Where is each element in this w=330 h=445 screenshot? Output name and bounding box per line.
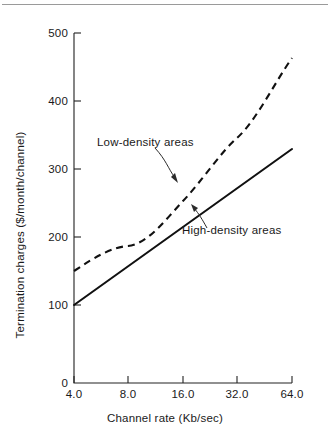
x-tick-label-64: 64.0	[272, 388, 312, 400]
y-tick-label-400: 400	[28, 95, 68, 107]
y-axis-ticks	[74, 33, 81, 305]
series-low-density-areas	[74, 58, 292, 271]
chart-figure: 500 400 300 200 100 0 4.0 8.0 16.0 32.0 …	[0, 0, 330, 445]
x-tick-label-8: 8.0	[108, 388, 148, 400]
x-axis-title: Channel rate (Kb/sec)	[0, 412, 330, 424]
x-tick-label-32: 32.0	[217, 388, 257, 400]
y-axis-title: Termination charges ($/month/channel)	[14, 70, 26, 400]
y-tick-label-500: 500	[28, 27, 68, 39]
annotation-low-density-areas: Low-density areas	[97, 136, 194, 148]
x-axis-ticks	[74, 376, 292, 383]
y-tick-label-100: 100	[28, 299, 68, 311]
x-tick-label-16: 16.0	[163, 388, 203, 400]
annotation-high-density-areas: High-density areas	[182, 224, 281, 236]
y-tick-label-300: 300	[28, 163, 68, 175]
x-tick-label-4: 4.0	[54, 388, 94, 400]
leader-low-density	[155, 148, 178, 183]
axis-spines	[74, 33, 292, 383]
y-tick-label-200: 200	[28, 231, 68, 243]
